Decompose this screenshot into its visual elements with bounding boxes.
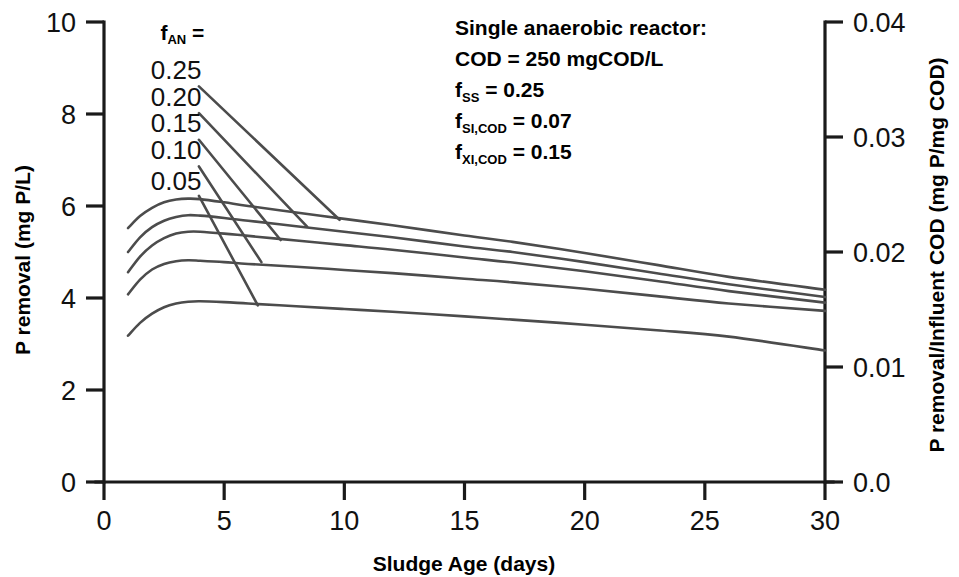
x-axis-tick-label: 10 [329,506,359,536]
secondary-y-axis-tick-label: 0.0 [853,468,891,498]
series-label: 0.05 [151,166,202,196]
x-axis-tick-label: 5 [217,506,232,536]
chart-canvas: 02468100.00.010.020.030.04051015202530 0… [0,0,959,577]
annotation-line: COD = 250 mgCOD/L [455,47,663,70]
secondary-y-axis-tick-label: 0.04 [853,8,906,38]
secondary-y-axis-title: P removal/Influent COD (mg P/mg COD) [925,57,948,452]
annotation-line: Single anaerobic reactor: [455,16,707,39]
x-axis-title: Sludge Age (days) [373,552,555,575]
y-axis-tick-label: 10 [46,8,76,38]
x-axis-tick-label: 20 [570,506,600,536]
secondary-y-axis-tick-label: 0.03 [853,123,906,153]
x-axis-tick-label: 15 [449,506,479,536]
y-axis-tick-label: 8 [61,100,76,130]
y-axis-tick-label: 6 [61,192,76,222]
series-label: 0.10 [151,135,202,165]
y-axis-title: P removal (mg P/L) [11,165,34,355]
series-label: 0.15 [151,108,202,138]
secondary-y-axis-tick-label: 0.01 [853,353,906,383]
x-axis-tick-label: 0 [96,506,111,536]
chart-figure: 02468100.00.010.020.030.04051015202530 0… [0,0,959,577]
series-label: 0.20 [151,82,202,112]
x-axis-tick-label: 30 [810,506,840,536]
y-axis-tick-label: 4 [61,284,76,314]
y-axis-tick-label: 2 [61,376,76,406]
x-axis-tick-label: 25 [690,506,720,536]
secondary-y-axis-tick-label: 0.02 [853,238,906,268]
y-axis-tick-label: 0 [61,468,76,498]
